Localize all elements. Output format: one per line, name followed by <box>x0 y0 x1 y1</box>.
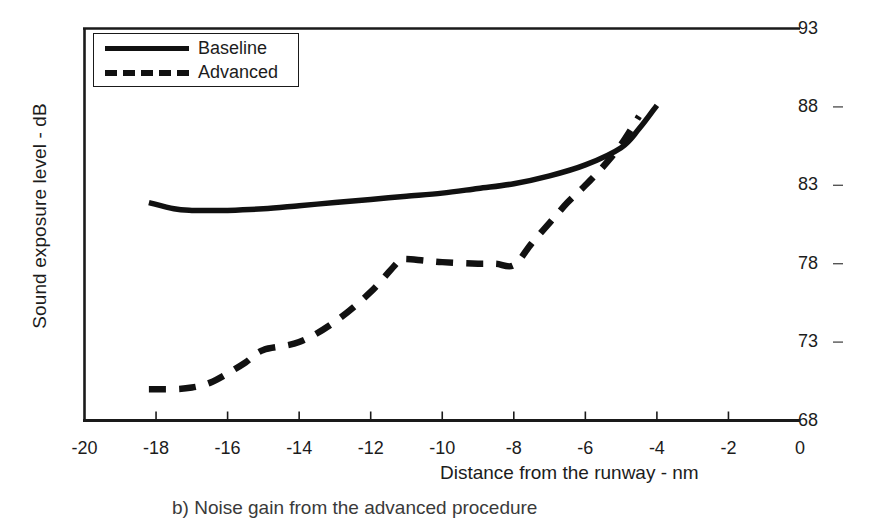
x-tick-label: 0 <box>770 438 830 459</box>
y-axis-ticks <box>833 107 843 342</box>
legend-entry-advanced: Advanced <box>94 60 298 86</box>
series-line-advanced <box>149 116 639 389</box>
y-tick-label: 78 <box>798 253 838 274</box>
x-tick-label: -20 <box>55 438 115 459</box>
legend-entry-baseline: Baseline <box>94 36 298 62</box>
x-axis-title: Distance from the runway - nm <box>440 462 699 484</box>
y-tick-label: 93 <box>798 18 838 39</box>
legend-label-baseline: Baseline <box>198 38 267 59</box>
x-tick-label: -12 <box>341 438 401 459</box>
figure-caption: b) Noise gain from the advanced procedur… <box>172 497 537 519</box>
y-tick-label: 88 <box>798 96 838 117</box>
legend-swatch-solid-icon <box>105 46 189 51</box>
x-tick-label: -4 <box>627 438 687 459</box>
y-tick-label: 73 <box>798 331 838 352</box>
x-tick-label: -8 <box>484 438 544 459</box>
x-tick-label: -18 <box>126 438 186 459</box>
x-tick-label: -10 <box>412 438 472 459</box>
x-tick-label: -14 <box>269 438 329 459</box>
y-tick-label: 68 <box>798 410 838 431</box>
legend-label-advanced: Advanced <box>198 62 278 83</box>
legend-swatch-dashed-icon <box>105 70 189 76</box>
series-line-baseline <box>149 105 657 210</box>
x-tick-label: -16 <box>198 438 258 459</box>
x-tick-label: -6 <box>555 438 615 459</box>
y-tick-label: 83 <box>798 174 838 195</box>
x-tick-label: -2 <box>698 438 758 459</box>
chart-legend: Baseline Advanced <box>93 33 299 87</box>
y-axis-title: Sound exposure level - dB <box>29 36 51 396</box>
data-series-layer <box>149 105 657 389</box>
